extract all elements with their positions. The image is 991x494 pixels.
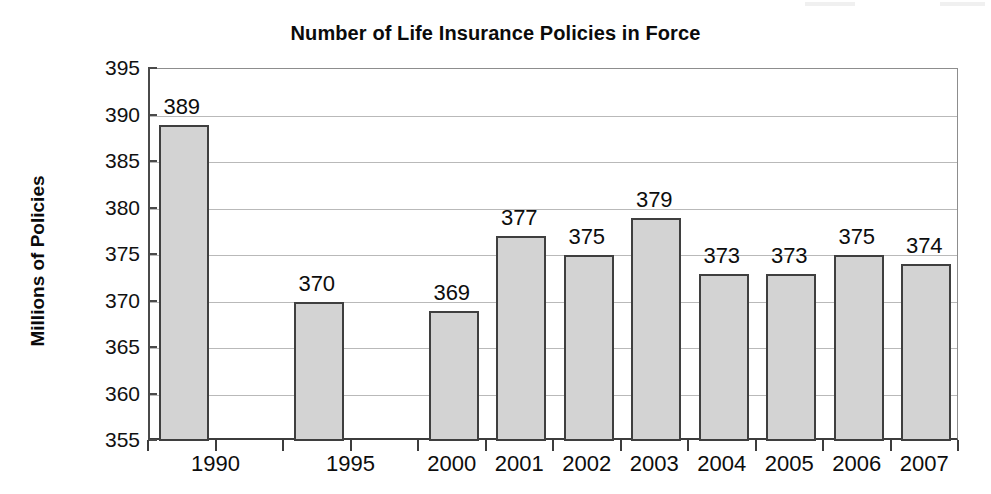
bar-value-label: 369	[412, 282, 492, 304]
y-axis-tick-labels: 395390385380375370365360355	[78, 68, 140, 440]
y-axis-tick-label: 370	[80, 290, 140, 311]
x-axis-tick-label: 2003	[621, 452, 689, 476]
bar[interactable]	[766, 274, 816, 441]
y-axis-tick-label: 395	[80, 57, 140, 78]
y-axis-tick-label: 390	[80, 104, 140, 125]
x-axis-tick-mark	[822, 440, 824, 451]
gridline	[150, 162, 957, 163]
x-axis-tick-label: 2007	[891, 452, 959, 476]
y-axis-tick-mark	[148, 393, 157, 395]
x-axis-tick-mark	[147, 440, 149, 451]
bar-value-label: 374	[884, 235, 964, 257]
x-axis-tick-mark	[485, 440, 487, 451]
x-axis-tick-label: 1990	[148, 452, 283, 476]
bar[interactable]	[496, 236, 546, 441]
x-axis-tick-label: 2005	[756, 452, 824, 476]
bar[interactable]	[159, 125, 209, 441]
bar[interactable]	[294, 302, 344, 442]
y-axis-tick-mark	[148, 207, 157, 209]
scan-artifact	[940, 2, 985, 6]
chart-title: Number of Life Insurance Policies in For…	[0, 22, 991, 45]
x-axis-tick-label: 2004	[688, 452, 756, 476]
bar-chart: Number of Life Insurance Policies in For…	[0, 0, 991, 494]
bar[interactable]	[429, 311, 479, 441]
scan-artifact	[805, 2, 855, 6]
y-axis-tick-mark	[148, 439, 157, 441]
y-axis-tick-mark	[148, 160, 157, 162]
y-axis-tick-label: 375	[80, 243, 140, 264]
x-axis-tick-mark	[890, 440, 892, 451]
y-axis-tick-mark	[148, 253, 157, 255]
x-axis-tick-label: 2000	[418, 452, 486, 476]
x-axis-tick-mark	[350, 440, 352, 451]
bar-value-label: 370	[277, 273, 357, 295]
bar[interactable]	[834, 255, 884, 441]
y-axis-tick-mark	[148, 346, 157, 348]
x-axis-tick-mark	[215, 440, 217, 451]
x-axis-tick-mark	[417, 440, 419, 451]
x-axis-tick-label: 2002	[553, 452, 621, 476]
x-axis-tick-label: 1995	[283, 452, 418, 476]
bar-value-label: 375	[547, 226, 627, 248]
x-axis-tick-mark	[620, 440, 622, 451]
y-axis-title: Millions of Policies	[27, 151, 49, 371]
y-axis-tick-mark	[148, 300, 157, 302]
y-axis-tick-label: 360	[80, 383, 140, 404]
bar[interactable]	[699, 274, 749, 441]
y-axis-tick-label: 365	[80, 336, 140, 357]
x-axis-tick-label: 2006	[823, 452, 891, 476]
y-axis-tick-mark	[148, 67, 157, 69]
x-axis-tick-mark	[687, 440, 689, 451]
gridline	[150, 116, 957, 117]
bar[interactable]	[631, 218, 681, 441]
y-axis-tick-label: 355	[80, 429, 140, 450]
bar-value-label: 389	[142, 96, 222, 118]
y-axis-tick-label: 385	[80, 150, 140, 171]
x-axis-tick-mark	[957, 440, 959, 451]
x-axis-tick-label: 2001	[486, 452, 554, 476]
x-axis-tick-mark	[755, 440, 757, 451]
x-axis-tick-mark	[282, 440, 284, 451]
plot-area	[148, 68, 958, 440]
x-axis-tick-mark	[552, 440, 554, 451]
y-axis-tick-label: 380	[80, 197, 140, 218]
bar-value-label: 379	[614, 189, 694, 211]
bar[interactable]	[564, 255, 614, 441]
bar[interactable]	[901, 264, 951, 441]
